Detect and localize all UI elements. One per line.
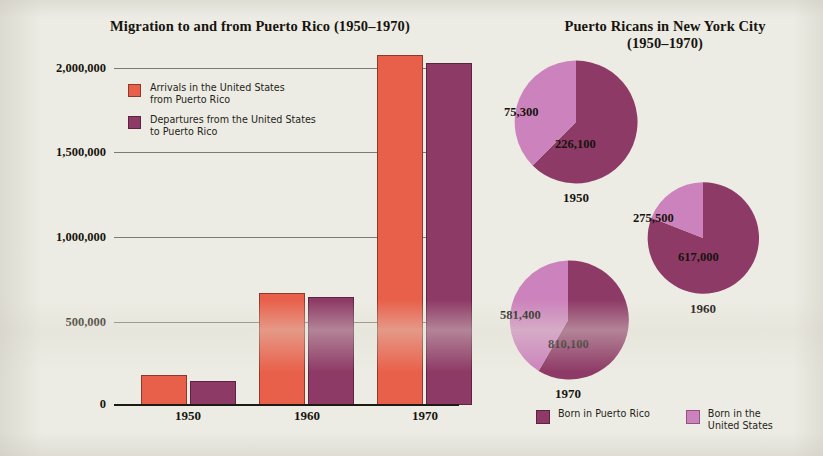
y-tick-label-2000000: 2,000,000 [20, 61, 106, 76]
pie-chart-legend: Born in Puerto Rico Born in the United S… [536, 408, 823, 431]
x-axis-line [114, 404, 459, 406]
pie-legend-label-born-united-states-line2: United States [708, 420, 773, 431]
legend-swatch-departures-icon [128, 116, 141, 129]
legend-label-departures: Departures from the United States to Pue… [150, 114, 316, 137]
legend-label-departures-line2: to Puerto Rico [150, 126, 217, 137]
bar-departures-1950 [190, 381, 236, 405]
legend-label-arrivals-line2: from Puerto Rico [150, 94, 230, 105]
x-tick-label-1960: 1960 [267, 408, 347, 424]
pie-1960-label-born-united-states: 275,500 [633, 211, 674, 226]
pie-chart-title: Puerto Ricans in New York City (1950–197… [520, 18, 810, 52]
bar-arrivals-1960 [259, 293, 305, 405]
bar-arrivals-1970 [377, 55, 423, 405]
pie-chart-panel: Puerto Ricans in New York City (1950–197… [470, 0, 823, 456]
pie-legend-item-born-united-states: Born in the United States [686, 408, 773, 431]
y-tick-label-500000: 500,000 [20, 315, 106, 330]
pie-legend-swatch-born-united-states-icon [686, 410, 700, 424]
legend-item-departures: Departures from the United States to Pue… [128, 114, 358, 137]
figure-canvas: Migration to and from Puerto Rico (1950–… [0, 0, 823, 456]
pie-legend-label-born-united-states-line1: Born in the [708, 408, 761, 419]
pie-legend-item-born-puerto-rico: Born in Puerto Rico [536, 408, 650, 431]
pie-chart-title-line1: Puerto Ricans in New York City [564, 18, 765, 34]
legend-swatch-arrivals-icon [128, 84, 141, 97]
bar-chart-panel: Migration to and from Puerto Rico (1950–… [0, 0, 470, 456]
pie-1950-label-born-united-states: 75,300 [504, 105, 538, 120]
pie-1950-year-label: 1950 [536, 190, 616, 206]
legend-label-arrivals: Arrivals in the United States from Puert… [150, 82, 285, 105]
pie-1970-year-label: 1970 [528, 386, 608, 402]
pie-legend-swatch-born-puerto-rico-icon [536, 410, 550, 424]
bar-chart-title: Migration to and from Puerto Rico (1950–… [60, 18, 460, 35]
x-tick-label-1950: 1950 [148, 408, 228, 424]
pie-chart-title-line2: (1950–1970) [627, 35, 703, 51]
pie-legend-label-born-united-states: Born in the United States [708, 408, 773, 431]
pie-legend-label-born-puerto-rico: Born in Puerto Rico [558, 408, 650, 420]
y-tick-label-1500000: 1,500,000 [20, 145, 106, 160]
pie-1960: 275,500 617,000 1960 [645, 180, 761, 296]
pie-1950: 75,300 226,100 1950 [512, 58, 640, 186]
bar-arrivals-1950 [141, 375, 187, 405]
pie-1970: 581,400 810,100 1970 [506, 258, 630, 382]
pie-1950-graphic [512, 58, 640, 186]
x-tick-label-1970: 1970 [385, 408, 465, 424]
pie-1950-label-born-puerto-rico: 226,100 [555, 137, 596, 152]
bar-departures-1960 [308, 297, 354, 405]
pie-1960-year-label: 1960 [663, 301, 743, 317]
pie-1960-graphic [645, 180, 761, 296]
legend-label-departures-line1: Departures from the United States [150, 114, 316, 125]
legend-item-arrivals: Arrivals in the United States from Puert… [128, 82, 358, 105]
pie-1970-label-born-puerto-rico: 810,100 [548, 337, 589, 352]
pie-1960-label-born-puerto-rico: 617,000 [678, 250, 719, 265]
pie-1970-label-born-united-states: 581,400 [500, 308, 541, 323]
bar-chart-legend: Arrivals in the United States from Puert… [128, 82, 358, 146]
y-tick-label-0: 0 [20, 397, 106, 412]
bar-departures-1970 [426, 63, 472, 405]
legend-label-arrivals-line1: Arrivals in the United States [150, 82, 285, 93]
y-tick-label-1000000: 1,000,000 [20, 230, 106, 245]
